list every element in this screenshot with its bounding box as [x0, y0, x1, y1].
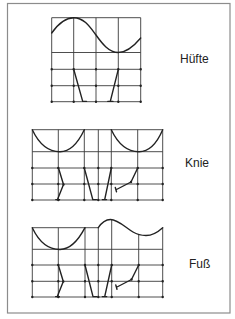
hip-grid	[52, 18, 141, 102]
hip-label: Hüfte	[180, 52, 209, 66]
gait-diagram-figure: Hüfte Knie Fuß	[0, 0, 235, 319]
knee-grid	[32, 130, 162, 200]
foot-panel: Fuß	[32, 220, 210, 298]
foot-leg-stick-figures	[56, 265, 139, 297]
knee-label: Knie	[185, 156, 209, 170]
foot-grid	[32, 220, 162, 297]
foot-angle-curve	[32, 220, 162, 250]
foot-label: Fuß	[189, 257, 210, 271]
knee-panel: Knie	[32, 130, 209, 200]
knee-angle-curve	[32, 130, 162, 152]
hip-panel: Hüfte	[52, 18, 209, 102]
